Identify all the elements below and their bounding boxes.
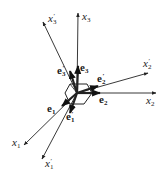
vector-label-e3: e3	[80, 61, 89, 75]
vector-label-e2: e2	[99, 93, 108, 107]
axes	[24, 13, 156, 159]
axis-label-x1p: x1′	[44, 157, 54, 171]
axis-label-x3: x3	[81, 10, 91, 24]
vector-label-e1p: e1′	[66, 110, 75, 124]
coordinate-rotation-diagram: x1x2x3x1′x2′x3′e1e2e3e1′e2′e3′	[0, 0, 167, 180]
vector-e3p	[70, 71, 77, 93]
vector-label-e1: e1	[47, 102, 56, 116]
vector-e3	[77, 66, 78, 93]
axis-x3p	[43, 22, 77, 93]
axis-label-x1: x1	[11, 136, 21, 150]
axis-label-x3p: x3′	[47, 12, 57, 26]
axis-label-x2: x2	[145, 94, 155, 108]
axis-label-x2p: x2′	[142, 57, 152, 71]
vector-label-e2p: e2′	[97, 72, 106, 86]
